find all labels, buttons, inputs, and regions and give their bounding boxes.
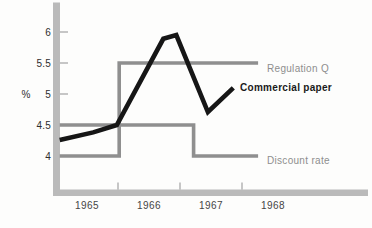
series-label-commercial-paper: Commercial paper <box>240 83 332 93</box>
x-year-label: 1967 <box>199 200 223 211</box>
y-axis-unit-label: % <box>21 89 30 100</box>
y-tick-label: 6 <box>45 27 51 38</box>
series-label-discount-rate: Discount rate <box>267 156 330 166</box>
series-label-regulation-q: Regulation Q <box>267 64 329 74</box>
x-year-label: 1968 <box>261 200 285 211</box>
y-tick-label: 4 <box>45 151 51 162</box>
series-line-regulation-q <box>60 63 258 156</box>
y-axis-bar <box>53 3 60 197</box>
interest-rate-chart-figure: 65.554.54%1965196619671968 Regulation Q … <box>0 0 372 228</box>
series-line-discount-rate <box>60 125 258 156</box>
chart-canvas: 65.554.54%1965196619671968 <box>0 0 372 228</box>
x-axis-bar <box>53 190 368 197</box>
y-tick-label: 4.5 <box>36 120 51 131</box>
x-year-label: 1965 <box>75 200 99 211</box>
y-tick-label: 5 <box>45 89 51 100</box>
y-tick-label: 5.5 <box>36 58 51 69</box>
x-year-label: 1966 <box>137 200 161 211</box>
